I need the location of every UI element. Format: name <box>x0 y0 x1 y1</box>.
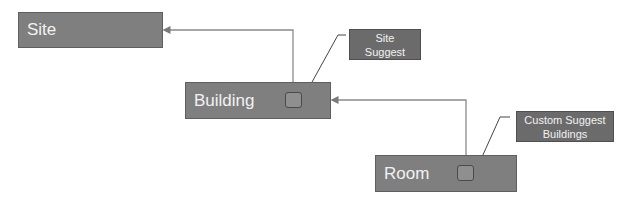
node-site[interactable]: Site <box>18 12 163 48</box>
node-site-label: Site <box>27 20 56 40</box>
room-lookup-port[interactable] <box>457 165 474 181</box>
note-custom-suggest-line2: Buildings <box>524 127 605 141</box>
building-lookup-port[interactable] <box>285 92 302 108</box>
node-room[interactable]: Room <box>375 155 517 192</box>
note-site-suggest: Site Suggest <box>349 29 421 60</box>
note-custom-suggest-buildings: Custom Suggest Buildings <box>516 111 614 142</box>
note-custom-suggest-line1: Custom Suggest <box>524 113 605 127</box>
note-site-suggest-line2: Suggest <box>365 45 405 59</box>
node-building-label: Building <box>194 91 255 111</box>
node-building[interactable]: Building <box>185 82 331 119</box>
note-site-suggest-line1: Site <box>365 31 405 45</box>
node-room-label: Room <box>384 164 429 184</box>
